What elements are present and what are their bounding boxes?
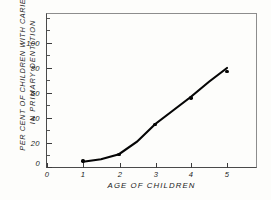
y-tick-minor-70 xyxy=(47,80,50,81)
data-point xyxy=(153,123,156,126)
y-tick-minor-10 xyxy=(47,155,50,156)
y-axis-title-line2: IN PRIMARY DENTITION xyxy=(28,0,38,157)
y-tick-label-0: 0 xyxy=(10,159,40,168)
x-tick-label-3: 3 xyxy=(146,170,166,179)
data-point xyxy=(189,96,192,99)
data-point xyxy=(81,159,84,162)
y-tick-minor-90 xyxy=(47,55,50,56)
y-tick-20 xyxy=(47,143,52,144)
figure-caries-vs-age: 100 80 60 40 20 0 0 1 2 3 4 5 AGE OF CHI… xyxy=(0,0,271,200)
x-tick-3 xyxy=(156,163,157,168)
y-tick-minor-30 xyxy=(47,130,50,131)
x-tick-label-0: 0 xyxy=(37,170,57,179)
y-tick-minor-50 xyxy=(47,105,50,106)
x-tick-label-1: 1 xyxy=(73,170,93,179)
x-tick-label-5: 5 xyxy=(217,170,237,179)
y-axis-title-line1: PER CENT OF CHILDREN WITH CARIES xyxy=(18,0,27,151)
x-tick-0 xyxy=(47,163,48,168)
x-tick-1 xyxy=(83,163,84,168)
x-tick-2 xyxy=(120,163,121,168)
x-tick-label-4: 4 xyxy=(181,170,201,179)
y-tick-40 xyxy=(47,118,52,119)
x-tick-5 xyxy=(227,163,228,168)
plot-frame xyxy=(46,13,257,168)
x-axis-title: AGE OF CHILDREN xyxy=(46,181,257,190)
y-tick-minor-120 xyxy=(47,18,50,19)
x-tick-label-2: 2 xyxy=(110,170,130,179)
y-tick-60 xyxy=(47,93,52,94)
y-tick-80 xyxy=(47,68,52,69)
y-axis-title: PER CENT OF CHILDREN WITH CARIES IN PRIM… xyxy=(18,0,38,157)
x-tick-4 xyxy=(191,163,192,168)
y-tick-minor-110 xyxy=(47,30,50,31)
y-tick-100 xyxy=(47,43,52,44)
data-point xyxy=(117,153,120,156)
